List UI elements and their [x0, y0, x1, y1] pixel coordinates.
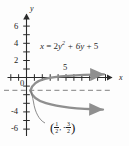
equation-term1-exponent: 2: [62, 40, 65, 46]
vertex-close-paren: ): [71, 120, 75, 135]
vertex-coordinate-label: (12, -32): [50, 121, 75, 135]
y-axis-label: y: [30, 5, 34, 13]
equation-term3: + 5: [86, 41, 98, 51]
y-tick-label-2: 2: [14, 56, 18, 65]
equation-term2: + 6y: [67, 41, 84, 51]
parabola-lower-branch: [31, 90, 104, 109]
y-tick-label-minus-6: -6: [11, 124, 18, 133]
x-tick-label-5: 5: [63, 63, 67, 72]
equation-lhs: x: [40, 41, 44, 51]
graph-figure: 6 4 2 0 -4 -6 5 x y x = 2y2 + 6y + 5 (12…: [0, 0, 129, 146]
y-tick-label-minus-4: -4: [11, 107, 18, 116]
y-tick-label-4: 4: [14, 39, 18, 48]
y-tick-label-6: 6: [14, 22, 18, 31]
vertex-comma: ,: [59, 123, 61, 132]
x-axis-label: x: [119, 74, 123, 82]
y-tick-label-0: 0: [20, 79, 24, 88]
equation-annotation: x = 2y2 + 6y + 5: [40, 40, 98, 51]
parabola-upper-branch: [31, 74, 105, 90]
equation-equals: =: [46, 41, 51, 51]
